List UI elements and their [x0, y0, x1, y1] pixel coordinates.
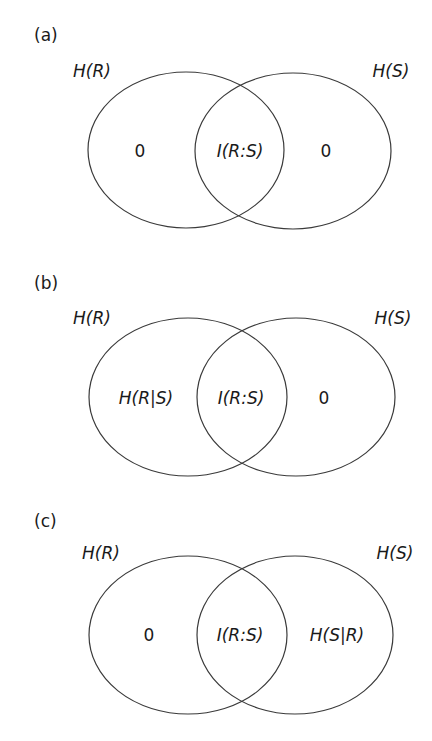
set-label-h-r: H(R) [73, 63, 111, 80]
region-mutual-information: I(R:S) [217, 143, 264, 160]
region-conditional-entropy-r-given-s: H(R|S) [119, 390, 173, 407]
venn-panel-b: (b) H(R) H(S) H(R|S) I(R:S) 0 [0, 247, 432, 487]
region-conditional-entropy-s-given-r: H(S|R) [310, 627, 364, 644]
venn-diagram-c [0, 485, 432, 725]
region-mutual-information: I(R:S) [218, 390, 265, 407]
region-left-value: 0 [135, 143, 146, 160]
panel-label: (b) [34, 275, 58, 292]
venn-diagram-a [0, 0, 432, 240]
region-mutual-information: I(R:S) [217, 627, 264, 644]
set-label-h-r: H(R) [73, 310, 111, 327]
venn-panel-a: (a) H(R) H(S) 0 I(R:S) 0 [0, 0, 432, 240]
set-label-h-s: H(S) [373, 63, 410, 80]
panel-label: (a) [34, 27, 58, 44]
venn-diagram-b [0, 247, 432, 487]
region-left-value: 0 [144, 627, 155, 644]
venn-panel-c: (c) H(R) H(S) 0 I(R:S) H(S|R) [0, 485, 432, 725]
region-right-value: 0 [321, 143, 332, 160]
set-label-h-s: H(S) [375, 310, 412, 327]
set-label-h-r: H(R) [82, 545, 120, 562]
region-right-value: 0 [319, 390, 330, 407]
set-label-h-s: H(S) [377, 545, 414, 562]
panel-label: (c) [34, 513, 57, 530]
